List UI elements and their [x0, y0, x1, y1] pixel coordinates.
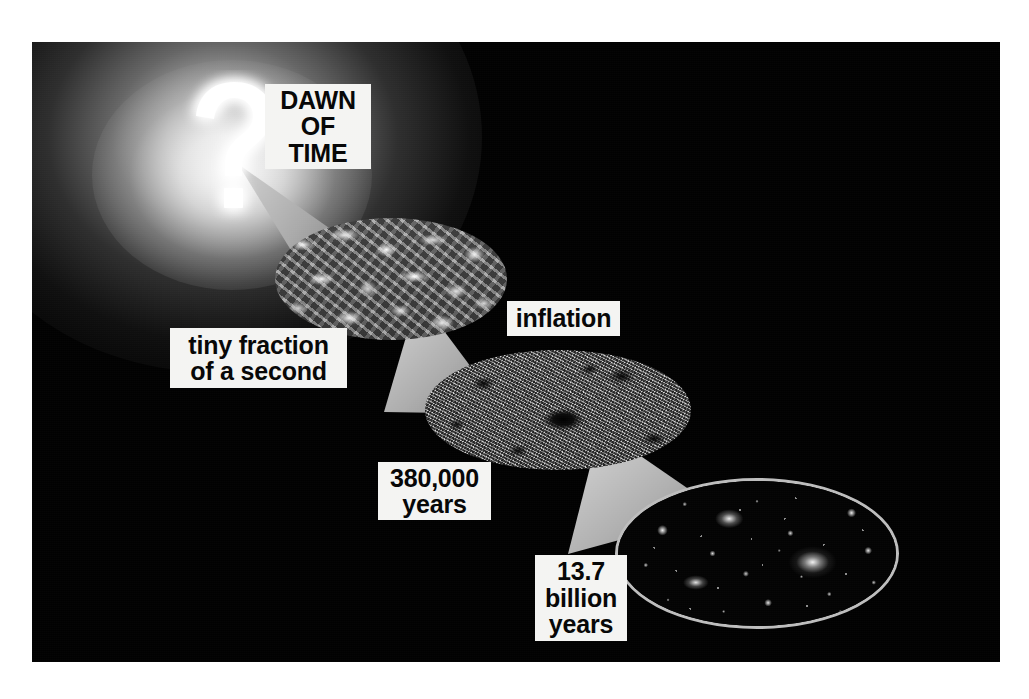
- caption-13-7-billion-years: 13.7 billion years: [535, 555, 627, 641]
- stage-quantum-foam: [275, 218, 507, 340]
- stage-cmb-map: [425, 350, 691, 470]
- caption-380000-years: 380,000 years: [378, 462, 491, 520]
- cosmic-canvas: DAWN OF TIME tiny fraction of a second i…: [32, 42, 1000, 662]
- caption-dawn-of-time: DAWN OF TIME: [265, 84, 371, 169]
- stage-galaxy-field: [615, 478, 899, 629]
- caption-inflation: inflation: [507, 301, 620, 336]
- galaxy-specks: [618, 481, 896, 626]
- caption-tiny-fraction-of-a-second: tiny fraction of a second: [170, 328, 347, 388]
- universe-timeline-figure: DAWN OF TIME tiny fraction of a second i…: [0, 0, 1029, 699]
